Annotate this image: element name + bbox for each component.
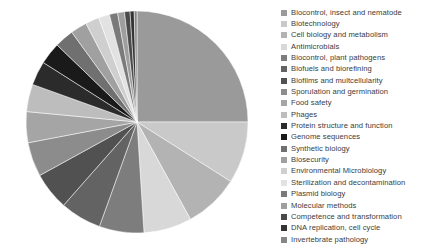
- legend-item-label: Biocontrol, insect and nematode: [291, 9, 402, 17]
- legend-item[interactable]: Biocontrol, plant pathogens: [281, 52, 446, 63]
- legend-item[interactable]: Synthetic biology: [281, 143, 446, 154]
- legend-item[interactable]: Biofilms and multcellularity: [281, 75, 446, 86]
- legend-item-label: Biofilms and multcellularity: [291, 77, 383, 85]
- legend-item-label: Competence and transformation: [291, 213, 402, 221]
- legend-item[interactable]: Food safety: [281, 98, 446, 109]
- legend-item[interactable]: Competence and transformation: [281, 211, 446, 222]
- legend-item[interactable]: Environmental Microbiology: [281, 166, 446, 177]
- legend-color-swatch-icon: [281, 225, 287, 231]
- legend-item[interactable]: Protein structure and function: [281, 120, 446, 131]
- legend-color-swatch-icon: [281, 112, 287, 118]
- legend-color-swatch-icon: [281, 55, 287, 61]
- legend-item-label: Cell biology and metabolism: [291, 31, 388, 39]
- legend-item-label: Sporulation and germination: [291, 88, 388, 96]
- legend-item[interactable]: DNA replication, cell cycle: [281, 223, 446, 234]
- legend-item[interactable]: Invertebrate pathology: [281, 234, 446, 245]
- legend-color-swatch-icon: [281, 157, 287, 163]
- legend-item[interactable]: Biosecurity: [281, 154, 446, 165]
- legend-color-swatch-icon: [281, 180, 287, 186]
- legend-item-label: Biosecurity: [291, 156, 329, 164]
- legend-item-label: Food safety: [291, 99, 332, 107]
- legend-color-swatch-icon: [281, 78, 287, 84]
- pie-slice[interactable]: [137, 11, 248, 122]
- legend-item[interactable]: Phages: [281, 109, 446, 120]
- pie-chart-svg: [0, 0, 268, 245]
- legend-color-swatch-icon: [281, 89, 287, 95]
- pie-slice-group: [26, 11, 248, 233]
- legend-item[interactable]: Sporulation and germination: [281, 86, 446, 97]
- legend-color-swatch-icon: [281, 123, 287, 129]
- chart-legend: Biocontrol, insect and nematodeBiotechno…: [281, 7, 446, 239]
- legend-item[interactable]: Biocontrol, insect and nematode: [281, 7, 446, 18]
- legend-item-label: Biocontrol, plant pathogens: [291, 54, 385, 62]
- legend-color-swatch-icon: [281, 44, 287, 50]
- legend-color-swatch-icon: [281, 134, 287, 140]
- legend-item-label: Sterilization and decontamination: [291, 179, 405, 187]
- legend-item-label: Biofuels and biorefining: [291, 65, 372, 73]
- pie-chart-figure: Biocontrol, insect and nematodeBiotechno…: [0, 0, 446, 245]
- legend-item-label: Environmental Microbiology: [291, 167, 386, 175]
- legend-item[interactable]: Molecular methods: [281, 200, 446, 211]
- legend-item-label: Plasmid biology: [291, 190, 345, 198]
- legend-color-swatch-icon: [281, 168, 287, 174]
- legend-color-swatch-icon: [281, 100, 287, 106]
- legend-item-label: Molecular methods: [291, 202, 356, 210]
- legend-item[interactable]: Sterilization and decontamination: [281, 177, 446, 188]
- legend-item-label: DNA replication, cell cycle: [291, 224, 380, 232]
- legend-color-swatch-icon: [281, 146, 287, 152]
- legend-item-label: Invertebrate pathology: [291, 236, 368, 244]
- legend-item[interactable]: Biofuels and biorefining: [281, 64, 446, 75]
- legend-item[interactable]: Cell biology and metabolism: [281, 30, 446, 41]
- legend-item-label: Protein structure and function: [291, 122, 392, 130]
- legend-color-swatch-icon: [281, 10, 287, 16]
- legend-color-swatch-icon: [281, 203, 287, 209]
- legend-item[interactable]: Antimicrobials: [281, 41, 446, 52]
- legend-color-swatch-icon: [281, 191, 287, 197]
- legend-color-swatch-icon: [281, 66, 287, 72]
- legend-item-label: Biotechnology: [291, 20, 340, 28]
- legend-color-swatch-icon: [281, 237, 287, 243]
- legend-color-swatch-icon: [281, 32, 287, 38]
- legend-item[interactable]: Genome sequences: [281, 132, 446, 143]
- legend-item-label: Synthetic biology: [291, 145, 350, 153]
- legend-item[interactable]: Plasmid biology: [281, 189, 446, 200]
- legend-item-label: Phages: [291, 111, 317, 119]
- legend-item[interactable]: Biotechnology: [281, 18, 446, 29]
- legend-item-label: Antimicrobials: [291, 43, 339, 51]
- pie-chart-plot-area: [0, 0, 268, 245]
- legend-color-swatch-icon: [281, 214, 287, 220]
- legend-color-swatch-icon: [281, 21, 287, 27]
- legend-item-label: Genome sequences: [291, 133, 360, 141]
